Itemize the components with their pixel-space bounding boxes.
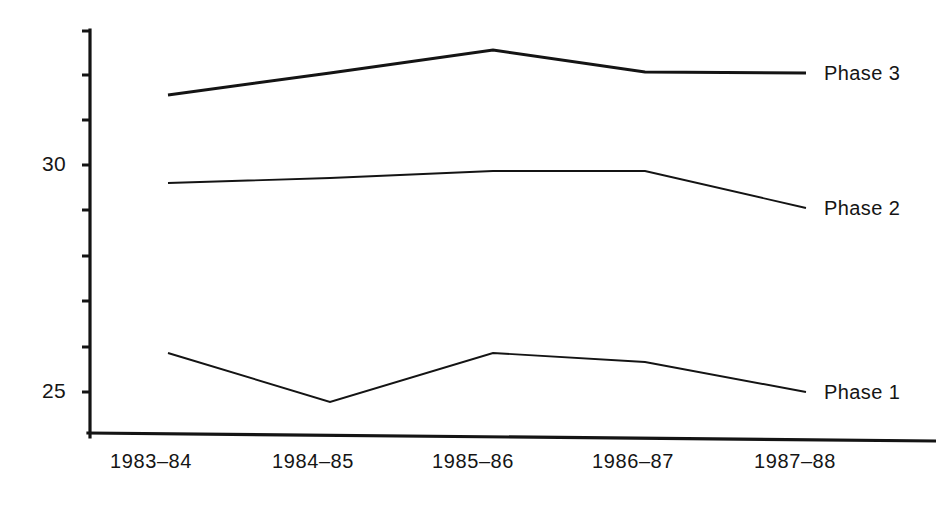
series-line-phase-2	[168, 171, 806, 208]
x-tick-label-1984-85: 1984–85	[272, 450, 354, 473]
x-tick-label-1983-84: 1983–84	[110, 450, 192, 473]
x-tick-label-1986-87: 1986–87	[592, 450, 674, 473]
x-tick-label-1985-86: 1985–86	[432, 450, 514, 473]
line-chart: 30 25 1983–84 1984–85 1985–86 1986–87 19…	[0, 0, 936, 507]
series-label-phase-2: Phase 2	[824, 197, 900, 220]
plot-area	[0, 0, 936, 507]
y-tick-label-25: 25	[24, 379, 66, 403]
y-tick-label-30: 30	[24, 152, 66, 176]
series-line-phase-1	[168, 353, 806, 402]
series-line-phase-3	[168, 50, 806, 95]
x-tick-label-1987-88: 1987–88	[754, 450, 836, 473]
series-label-phase-3: Phase 3	[824, 62, 900, 85]
series-label-phase-1: Phase 1	[824, 381, 900, 404]
x-axis-line	[88, 433, 936, 441]
